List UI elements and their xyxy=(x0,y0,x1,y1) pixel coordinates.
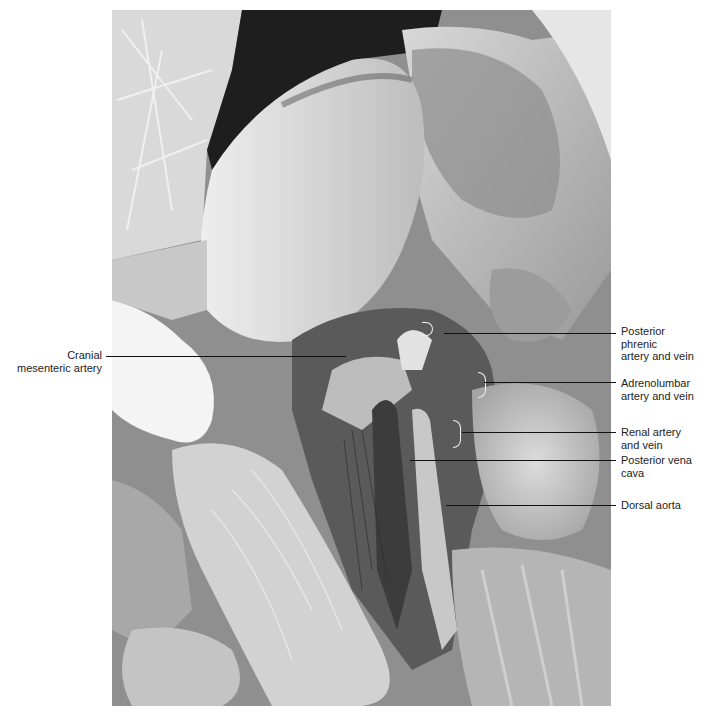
cranial-mesenteric-leader xyxy=(106,356,346,357)
renal-bracket xyxy=(453,420,461,448)
label-renal: Renal artery and vein xyxy=(621,426,681,451)
label-line: Adrenolumbar xyxy=(621,377,694,390)
label-line: and vein xyxy=(621,439,681,452)
label-line: cava xyxy=(621,467,692,480)
label-line: artery and vein xyxy=(621,390,694,403)
dissection-figure: Cranial mesenteric artery Posterior phre… xyxy=(0,0,718,712)
label-line: Posterior vena xyxy=(621,454,692,467)
renal-leader xyxy=(462,432,616,433)
label-dorsal-aorta: Dorsal aorta xyxy=(621,499,681,512)
label-line: Posterior xyxy=(621,325,694,338)
label-line: phrenic xyxy=(621,338,694,351)
label-line: artery and vein xyxy=(621,350,694,363)
dorsal-aorta-leader xyxy=(446,505,616,506)
label-line: Cranial xyxy=(0,349,102,362)
label-line: Dorsal aorta xyxy=(621,499,681,512)
posterior-vena-cava-leader xyxy=(410,460,616,461)
dissection-photo xyxy=(112,10,611,706)
label-posterior-phrenic: Posterior phrenic artery and vein xyxy=(621,325,694,363)
label-line: mesenteric artery xyxy=(0,362,102,375)
label-line: Renal artery xyxy=(621,426,681,439)
adrenolumbar-bracket xyxy=(478,372,486,398)
label-cranial-mesenteric-artery: Cranial mesenteric artery xyxy=(0,349,102,374)
label-adrenolumbar: Adrenolumbar artery and vein xyxy=(621,377,694,402)
adrenolumbar-leader xyxy=(484,382,616,383)
label-posterior-vena-cava: Posterior vena cava xyxy=(621,454,692,479)
posterior-phrenic-leader xyxy=(444,333,616,334)
